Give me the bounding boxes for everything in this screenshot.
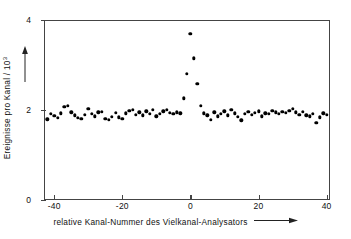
data-point	[158, 112, 161, 115]
data-point	[192, 57, 195, 60]
y-axis-arrow-icon	[20, 46, 30, 82]
data-point	[185, 72, 188, 75]
data-point	[114, 111, 117, 114]
data-point	[87, 107, 90, 110]
y-axis-title-text: Ereignisse pro Kanal / 10	[2, 60, 12, 159]
data-point	[257, 110, 260, 113]
x-tick-mark	[122, 195, 123, 200]
x-tick-mark	[259, 195, 260, 200]
data-point	[325, 113, 328, 116]
data-point	[260, 115, 263, 118]
data-point	[107, 118, 110, 121]
x-tick-label: 0	[188, 201, 193, 211]
data-point	[311, 112, 314, 115]
data-point	[199, 104, 202, 107]
y-tick-label: 4	[26, 15, 31, 25]
data-point	[236, 115, 239, 118]
data-point	[178, 111, 181, 114]
y-tick-mark	[41, 200, 46, 201]
x-axis-arrow-icon	[254, 216, 298, 226]
data-point	[66, 104, 69, 107]
data-point	[151, 108, 154, 111]
data-point	[219, 112, 222, 115]
data-point	[124, 111, 127, 114]
data-point	[189, 32, 192, 35]
data-point	[141, 114, 144, 117]
data-point	[213, 111, 216, 114]
data-point	[93, 115, 96, 118]
data-point	[56, 116, 59, 119]
x-axis-title-text: relative Kanal-Nummer des Vielkanal-Anal…	[53, 217, 247, 227]
y-tick-label: 0	[26, 195, 31, 205]
data-point	[318, 115, 321, 118]
data-point	[315, 121, 318, 124]
data-point	[233, 111, 236, 114]
x-axis-title: relative Kanal-Nummer des Vielkanal-Anal…	[0, 216, 351, 227]
data-point	[110, 115, 113, 118]
y-tick-mark	[41, 110, 46, 111]
data-point	[243, 112, 246, 115]
data-point	[131, 108, 134, 111]
data-point	[206, 114, 209, 117]
data-point	[121, 117, 124, 120]
x-tick-mark	[190, 195, 191, 200]
data-point	[226, 114, 229, 117]
data-point	[80, 117, 83, 120]
x-tick-label: -40	[48, 201, 61, 211]
scatter-series	[44, 20, 330, 200]
data-point	[240, 119, 243, 122]
data-point	[267, 112, 270, 115]
y-tick-label: 2	[26, 105, 31, 115]
y-tick-mark	[41, 20, 46, 21]
data-point	[134, 113, 137, 116]
data-point	[223, 110, 226, 113]
data-point	[155, 115, 158, 118]
x-tick-label: -20	[116, 201, 129, 211]
data-point	[100, 110, 103, 113]
data-point	[209, 118, 212, 121]
data-point	[83, 113, 86, 116]
data-point	[148, 112, 151, 115]
data-point	[301, 110, 304, 113]
data-point	[298, 113, 301, 116]
data-point	[46, 118, 49, 121]
x-tick-label: 40	[322, 201, 332, 211]
y-axis-title: Ereignisse pro Kanal / 103	[2, 57, 13, 160]
x-tick-label: 20	[254, 201, 264, 211]
data-point	[196, 82, 199, 85]
data-point	[216, 115, 219, 118]
x-tick-mark	[327, 195, 328, 200]
x-tick-mark	[54, 195, 55, 200]
data-point	[182, 97, 185, 100]
y-axis-title-exponent: 3	[2, 57, 8, 61]
data-point	[308, 115, 311, 118]
chart-container: -40-2002040 024 Ereignisse pro Kanal / 1…	[0, 0, 351, 239]
data-point	[59, 111, 62, 114]
